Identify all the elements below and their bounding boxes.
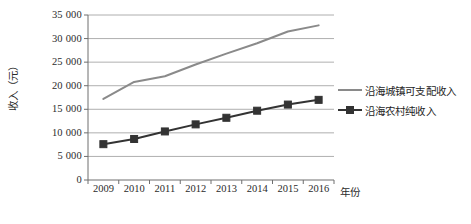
data-point-marker [192,121,199,128]
x-axis-tick-label: 2016 [299,184,339,195]
legend-swatch-icon [338,83,362,97]
legend-label: 沿海城镇可支配收入 [365,83,456,98]
y-axis-tick-label: 20 000 [20,81,82,92]
data-point-marker [131,135,138,142]
x-axis-tick-labels: 20092010201120122013201420152016 [88,184,334,202]
y-axis-tick-label: 35 000 [20,10,82,21]
series-2 [100,96,322,147]
legend-item[interactable]: 沿海农村纯收入 [338,100,471,120]
y-axis-tick-labels: 05 00010 00015 00020 00025 00030 00035 0… [18,0,82,224]
data-point-marker [223,114,230,121]
y-axis-tick-label: 25 000 [20,57,82,68]
data-point-marker [315,96,322,103]
y-axis-tick-label: 5 000 [20,151,82,162]
legend-label: 沿海农村纯收入 [365,103,436,118]
y-axis-tick-label: 0 [20,175,82,186]
y-axis-tick-label: 10 000 [20,128,82,139]
y-axis-tick-label: 30 000 [20,34,82,45]
data-point-marker [254,107,261,114]
x-axis-title: 年份 [340,184,360,199]
y-axis-ticks [84,15,88,180]
data-point-marker [284,101,291,108]
gridlines [88,15,334,156]
data-point-marker [161,128,168,135]
income-line-chart: 05 00010 00015 00020 00025 00030 00035 0… [0,0,471,224]
axis-lines [88,15,334,180]
legend-item[interactable]: 沿海城镇可支配收入 [338,80,471,100]
y-axis-tick-label: 15 000 [20,104,82,115]
legend-swatch-icon [338,103,362,117]
y-axis-title: 收入（元） [5,56,20,116]
data-point-marker [100,141,107,148]
chart-legend: 沿海城镇可支配收入沿海农村纯收入 [338,80,471,120]
